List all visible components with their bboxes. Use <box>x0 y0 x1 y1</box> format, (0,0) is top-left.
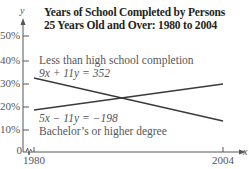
y-tick-0: 0 <box>0 144 22 156</box>
series2-equation-label: 5x − 11y = −198 <box>39 112 118 124</box>
y-axis-arrow-icon <box>21 18 26 25</box>
x-tick-1980: 1980 <box>23 154 45 166</box>
y-tick-10: 10% <box>0 123 20 135</box>
x-axis-label: x <box>243 146 247 157</box>
y-axis-label: y <box>20 5 24 16</box>
series2-name-label: Bachelor’s or higher degree <box>39 125 167 137</box>
y-tick-20: 20% <box>0 100 20 112</box>
x-tick-2004: 2004 <box>212 154 234 166</box>
plot-area <box>0 0 249 169</box>
series1-equation-label: 9x + 11y = 352 <box>39 67 110 79</box>
series1-name-label: Less than high school completion <box>39 54 194 66</box>
y-tick-40: 40% <box>0 54 20 66</box>
y-tick-30: 30% <box>0 77 20 89</box>
line-bachelors-or-higher <box>34 84 223 110</box>
y-tick-50: 50% <box>0 29 20 41</box>
